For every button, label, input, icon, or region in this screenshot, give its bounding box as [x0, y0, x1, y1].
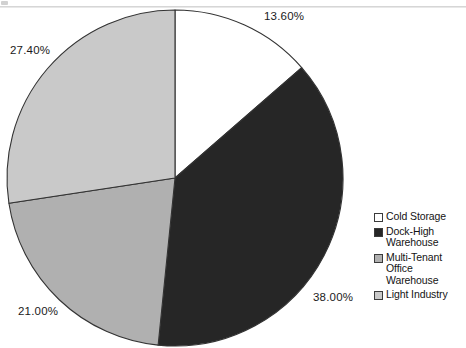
legend-item-light-industry: Light Industry — [374, 289, 466, 301]
pie-chart-figure: 13.60% 38.00% 21.00% 27.40% Cold Storage… — [0, 0, 466, 348]
slice-label-dock-high-warehouse: 38.00% — [313, 291, 353, 303]
slice-label-light-industry: 27.40% — [10, 44, 50, 56]
legend-swatch-icon-dock-high-warehouse — [374, 228, 383, 237]
legend-swatch-icon-cold-storage — [374, 213, 383, 222]
legend-swatch-icon-light-industry — [374, 291, 383, 300]
slice-label-multi-tenant-office-warehouse: 21.00% — [18, 305, 58, 317]
legend-label-dock-high-warehouse: Dock-High Warehouse — [386, 226, 466, 249]
legend-label-light-industry: Light Industry — [386, 289, 448, 301]
legend-item-dock-high-warehouse: Dock-High Warehouse — [374, 226, 466, 249]
legend-label-cold-storage: Cold Storage — [386, 211, 446, 223]
slice-label-cold-storage: 13.60% — [264, 10, 304, 22]
pie-slice — [9, 178, 175, 345]
legend-item-cold-storage: Cold Storage — [374, 211, 466, 223]
chart-legend: Cold Storage Dock-High Warehouse Multi-T… — [374, 211, 466, 304]
legend-swatch-icon-multi-tenant-office-warehouse — [374, 254, 383, 263]
legend-item-multi-tenant-office-warehouse: Multi-Tenant Office Warehouse — [374, 252, 466, 287]
legend-label-multi-tenant-office-warehouse: Multi-Tenant Office Warehouse — [386, 252, 466, 287]
pie-slice — [7, 10, 175, 203]
